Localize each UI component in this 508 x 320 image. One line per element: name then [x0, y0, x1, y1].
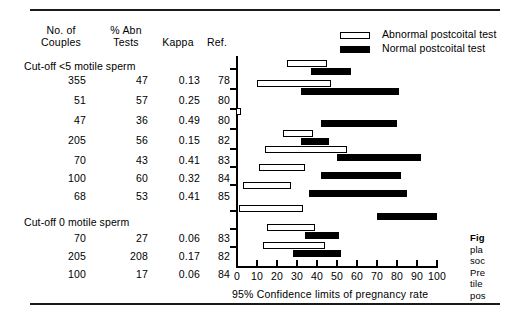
x-axis-tick — [256, 260, 258, 267]
cell-couples: 70 — [30, 154, 86, 166]
legend-label-abnormal: Abnormal postcoital test — [382, 28, 496, 40]
bottom-rule — [30, 303, 500, 305]
caption-line-4: Pre — [470, 267, 485, 278]
cell-ref: 84 — [198, 268, 230, 280]
data-table: No. of Couples % Abn Tests Kappa Ref. — [0, 22, 228, 56]
cell-couples: 70 — [30, 232, 86, 244]
caption-line-5: tile — [470, 278, 483, 289]
legend-swatch-open-icon — [340, 32, 370, 39]
cell-kappa: 0.13 — [150, 74, 200, 86]
x-axis-tick — [436, 260, 438, 267]
y-axis-tick — [230, 108, 236, 110]
table-row: 70 27 0.06 83 — [0, 232, 228, 246]
y-axis-tick — [230, 166, 236, 168]
header-couples-line2: Couples — [41, 36, 81, 48]
bar-abnormal — [263, 242, 325, 249]
cell-ref: 82 — [198, 250, 230, 262]
x-axis-label-70: 70 — [362, 270, 392, 282]
cell-ref: 84 — [198, 172, 230, 184]
x-axis-label-60: 60 — [342, 270, 372, 282]
bar-normal — [301, 138, 329, 145]
table-header-row: No. of Couples % Abn Tests Kappa Ref. — [0, 22, 228, 56]
cell-kappa: 0.25 — [150, 94, 200, 106]
cell-abn: 36 — [98, 114, 148, 126]
x-axis-tick — [396, 260, 398, 267]
x-axis-tick — [296, 260, 298, 267]
x-axis-tick — [376, 260, 378, 267]
group-label-cutoff-5: Cut-off <5 motile sperm — [24, 60, 136, 72]
table-row: 68 53 0.41 85 — [0, 190, 228, 204]
y-axis-tick — [230, 68, 236, 70]
x-axis-label-90: 90 — [402, 270, 432, 282]
cell-abn: 43 — [98, 154, 148, 166]
bar-normal — [293, 250, 341, 257]
table-row: 47 36 0.49 80 — [0, 114, 228, 128]
caption-line-1: Fig — [470, 232, 485, 243]
header-couples-line1: No. of — [46, 24, 75, 36]
y-axis-tick — [230, 88, 236, 90]
cell-kappa: 0.15 — [150, 134, 200, 146]
bar-normal — [337, 154, 421, 161]
x-axis-title: 95% Confidence limits of pregnancy rate — [232, 288, 428, 300]
cell-kappa: 0.17 — [150, 250, 200, 262]
caption-line-2: pla — [470, 244, 483, 255]
cell-abn: 60 — [98, 172, 148, 184]
cell-abn: 208 — [98, 250, 148, 262]
cell-kappa: 0.32 — [150, 172, 200, 184]
cell-kappa: 0.41 — [150, 154, 200, 166]
y-axis-tick — [230, 128, 236, 130]
cell-ref: 83 — [198, 154, 230, 166]
y-axis-tick — [230, 210, 236, 212]
bar-normal — [301, 88, 399, 95]
legend-label-normal: Normal postcoital test — [382, 42, 485, 54]
x-axis-tick — [416, 260, 418, 267]
cell-abn: 53 — [98, 190, 148, 202]
cell-kappa: 0.06 — [150, 268, 200, 280]
header-ref: Ref. — [200, 36, 234, 48]
cell-kappa: 0.49 — [150, 114, 200, 126]
table-row: 100 60 0.32 84 — [0, 172, 228, 186]
bar-abnormal — [267, 224, 315, 231]
cell-couples: 205 — [30, 250, 86, 262]
top-rule — [30, 9, 500, 11]
cell-couples: 355 — [30, 74, 86, 86]
header-abn-line2: Tests — [113, 36, 139, 48]
x-axis-label-50: 50 — [322, 270, 352, 282]
cell-abn: 47 — [98, 74, 148, 86]
y-axis-line — [236, 56, 238, 268]
bar-abnormal — [239, 205, 303, 212]
y-axis-tick — [230, 228, 236, 230]
caption-line-3: soc — [470, 255, 485, 266]
cell-couples: 51 — [30, 94, 86, 106]
cell-ref: 80 — [198, 114, 230, 126]
table-row: 100 17 0.06 84 — [0, 268, 228, 282]
bar-abnormal — [265, 146, 347, 153]
x-axis-tick — [236, 260, 238, 267]
cell-abn: 57 — [98, 94, 148, 106]
table-row: 51 57 0.25 80 — [0, 94, 228, 108]
y-axis-tick — [230, 184, 236, 186]
cell-ref: 78 — [198, 74, 230, 86]
legend-swatch-solid-icon — [340, 46, 370, 53]
x-axis-tick — [276, 260, 278, 267]
cell-ref: 82 — [198, 134, 230, 146]
table-row: 70 43 0.41 83 — [0, 154, 228, 168]
cell-kappa: 0.41 — [150, 190, 200, 202]
header-no-of-couples: No. of Couples — [30, 24, 92, 48]
header-pct-abn-tests: % Abn Tests — [98, 24, 154, 48]
cell-couples: 68 — [30, 190, 86, 202]
x-axis-label-100: 100 — [422, 270, 452, 282]
caption-line-6: pos — [470, 290, 486, 301]
x-axis-tick — [316, 260, 318, 267]
bar-normal — [377, 213, 437, 220]
header-abn-line1: % Abn — [110, 24, 141, 36]
x-axis-label-10: 10 — [242, 270, 272, 282]
table-row: 205 56 0.15 82 — [0, 134, 228, 148]
table-row: 355 47 0.13 78 — [0, 74, 228, 88]
x-axis-tick — [336, 260, 338, 267]
cell-couples: 100 — [30, 172, 86, 184]
cell-couples: 47 — [30, 114, 86, 126]
bar-abnormal — [287, 60, 327, 67]
cell-kappa: 0.06 — [150, 232, 200, 244]
cell-abn: 56 — [98, 134, 148, 146]
